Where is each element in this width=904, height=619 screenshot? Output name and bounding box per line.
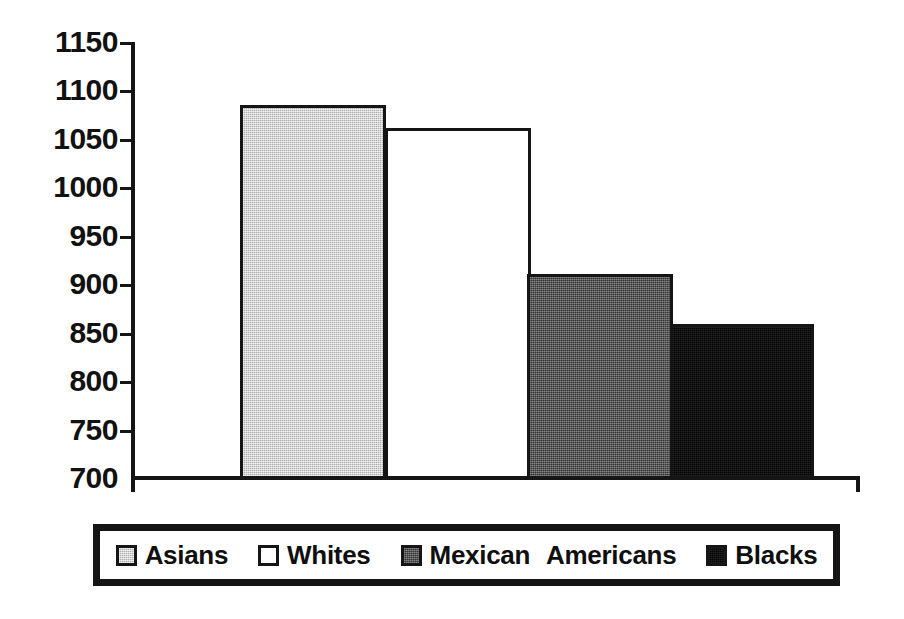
bar-asians: [240, 105, 386, 479]
y-axis-tick-label-950: 950: [69, 221, 118, 251]
y-axis-tick-label-1050: 1050: [53, 124, 118, 154]
legend-item-whites: Whites: [258, 542, 370, 568]
legend-label-blacks: Blacks: [735, 542, 817, 568]
legend-box: Asians Whites Mexican Americans Blacks: [93, 524, 840, 586]
bar-mexican-americans: [527, 274, 673, 479]
legend-items: Asians Whites Mexican Americans Blacks: [100, 531, 833, 579]
plot-area: 1150 1100 1050 1000 950 900 850 800 750 …: [0, 0, 904, 500]
legend-item-asians: Asians: [116, 542, 228, 568]
legend-label-asians: Asians: [145, 542, 228, 568]
legend-label-americans: Americans: [546, 542, 676, 568]
bar-chart-figure: 1150 1100 1050 1000 950 900 850 800 750 …: [0, 0, 904, 619]
x-axis-end-tick: [856, 476, 860, 492]
y-axis-tick-label-1150: 1150: [55, 27, 118, 57]
legend-swatch-whites-icon: [258, 545, 279, 566]
bar-whites: [385, 128, 531, 479]
legend-item-mexican-americans: Mexican Americans: [401, 542, 677, 568]
y-axis-tick-label-800: 800: [69, 366, 118, 396]
legend-swatch-blacks-icon: [706, 545, 727, 566]
y-axis-tick-label-900: 900: [69, 269, 118, 299]
legend-label-whites: Whites: [287, 542, 370, 568]
legend-item-blacks: Blacks: [706, 542, 817, 568]
y-axis-tick-label-1100: 1100: [55, 75, 118, 105]
bar-blacks: [670, 324, 814, 479]
legend-swatch-asians-icon: [116, 545, 137, 566]
y-axis-line: [131, 42, 135, 480]
legend-swatch-mexican-americans-icon: [401, 545, 422, 566]
y-axis-tick-label-750: 750: [69, 415, 118, 445]
y-axis-tick-label-1000: 1000: [53, 172, 118, 202]
legend-label-mexican: Mexican: [430, 542, 531, 568]
y-axis-origin-tick: [131, 462, 135, 492]
y-axis-tick-label-850: 850: [69, 318, 118, 348]
y-axis-tick-label-700: 700: [69, 463, 118, 493]
